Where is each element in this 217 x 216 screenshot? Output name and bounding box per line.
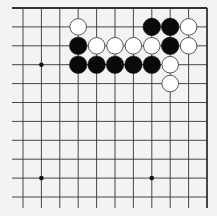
white-stone bbox=[162, 56, 179, 73]
star-point bbox=[39, 62, 44, 67]
star-point bbox=[150, 176, 155, 181]
white-stone bbox=[70, 19, 87, 36]
white-stone bbox=[107, 38, 124, 55]
white-stone bbox=[144, 38, 161, 55]
black-stone bbox=[161, 37, 179, 55]
white-stone bbox=[180, 19, 197, 36]
star-point bbox=[39, 176, 44, 181]
black-stone bbox=[161, 18, 179, 36]
white-stone bbox=[180, 38, 197, 55]
black-stone bbox=[106, 56, 124, 74]
black-stone bbox=[125, 56, 143, 74]
white-stone bbox=[125, 38, 142, 55]
white-stone bbox=[162, 75, 179, 92]
black-stone bbox=[88, 56, 106, 74]
black-stone bbox=[143, 56, 161, 74]
go-board bbox=[0, 0, 217, 216]
white-stone bbox=[88, 38, 105, 55]
black-stone bbox=[69, 37, 87, 55]
black-stone bbox=[69, 56, 87, 74]
black-stone bbox=[143, 18, 161, 36]
